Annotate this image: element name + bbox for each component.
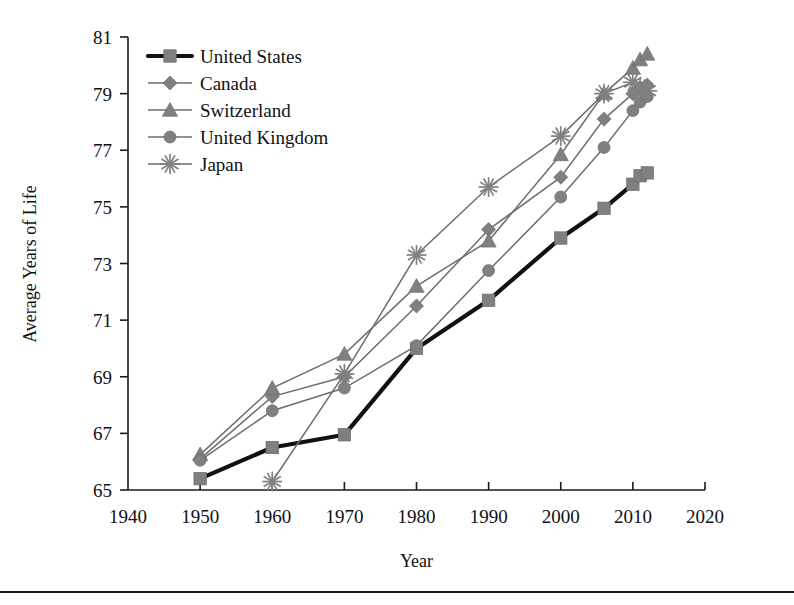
y-tick-label-71: 71 <box>93 310 112 331</box>
y-tick-label-69: 69 <box>93 367 112 388</box>
diamond-marker <box>554 170 568 184</box>
diamond-marker <box>163 76 177 90</box>
legend-label: United Kingdom <box>200 127 328 148</box>
circle-marker <box>411 340 423 352</box>
y-axis-tick-labels: 656769717375777981 <box>93 27 112 501</box>
circle-marker <box>598 141 610 153</box>
square-marker <box>482 294 494 306</box>
circle-marker <box>164 131 176 143</box>
square-marker <box>266 441 278 453</box>
series-united-states <box>194 167 654 485</box>
asterisk-marker <box>262 472 282 492</box>
x-tick-label-2000: 2000 <box>542 506 580 527</box>
triangle-marker <box>265 381 280 395</box>
x-tick-label-1970: 1970 <box>325 506 363 527</box>
legend-label: Switzerland <box>200 100 291 121</box>
y-tick-label-77: 77 <box>93 140 112 161</box>
x-tick-label-1980: 1980 <box>398 506 436 527</box>
asterisk-marker <box>334 364 354 384</box>
series-path <box>200 173 647 479</box>
y-tick-label-67: 67 <box>93 423 112 444</box>
legend-item-switzerland: Switzerland <box>148 100 291 121</box>
asterisk-marker <box>160 154 180 174</box>
legend-label: Japan <box>200 154 244 175</box>
x-tick-label-1940: 1940 <box>109 506 147 527</box>
circle-marker <box>338 382 350 394</box>
square-marker <box>338 429 350 441</box>
triangle-marker <box>409 279 424 293</box>
x-tick-label-1950: 1950 <box>181 506 219 527</box>
y-tick-label-79: 79 <box>93 84 112 105</box>
square-marker <box>164 50 176 62</box>
triangle-marker <box>640 46 655 60</box>
legend-item-canada: Canada <box>148 73 258 94</box>
legend-label: United States <box>200 46 302 67</box>
square-marker <box>641 167 653 179</box>
x-tick-label-1960: 1960 <box>253 506 291 527</box>
square-marker <box>555 232 567 244</box>
square-marker <box>598 202 610 214</box>
y-tick-label-75: 75 <box>93 197 112 218</box>
legend-item-united-kingdom: United Kingdom <box>148 127 328 148</box>
triangle-marker <box>553 147 568 161</box>
y-tick-label-73: 73 <box>93 254 112 275</box>
legend-item-japan: Japan <box>148 154 244 175</box>
x-tick-label-2020: 2020 <box>686 506 724 527</box>
circle-marker <box>266 405 278 417</box>
x-tick-label-1990: 1990 <box>470 506 508 527</box>
circle-marker <box>483 265 495 277</box>
legend-item-united-states: United States <box>148 46 302 67</box>
series-path <box>272 82 647 481</box>
legend-label: Canada <box>200 73 258 94</box>
figure-container: 656769717375777981 194019501960197019801… <box>0 0 794 605</box>
life-expectancy-line-chart: 656769717375777981 194019501960197019801… <box>0 0 794 605</box>
chart-legend: United StatesCanadaSwitzerlandUnited Kin… <box>148 46 328 175</box>
x-axis-tick-labels: 194019501960197019801990200020102020 <box>109 506 724 527</box>
circle-marker <box>555 191 567 203</box>
square-marker <box>194 472 206 484</box>
x-tick-label-2010: 2010 <box>614 506 652 527</box>
x-axis-title: Year <box>400 551 433 571</box>
y-tick-label-65: 65 <box>93 480 112 501</box>
y-axis-title: Average Years of Life <box>20 185 40 343</box>
y-tick-label-81: 81 <box>93 27 112 48</box>
circle-marker <box>194 454 206 466</box>
